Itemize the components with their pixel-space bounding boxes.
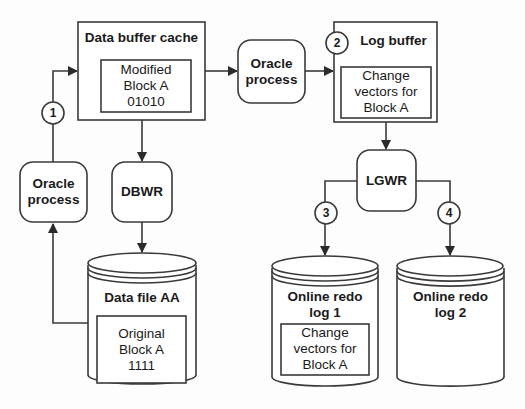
oracle-process-middle-line-1: Oracle <box>238 56 305 72</box>
step-3-label: 3 <box>315 205 337 221</box>
redo-log-2-title-line-1: Online redo <box>397 289 504 305</box>
step-4-label: 4 <box>438 205 460 221</box>
step-1-label: 1 <box>42 105 64 121</box>
original-block-text: Original Block A 1111 <box>97 326 186 374</box>
edge-datafile-to-oracle <box>53 224 88 323</box>
modified-block-line-2: Block A <box>101 78 191 94</box>
oracle-process-left-line-2: process <box>20 192 87 208</box>
oracle-process-middle-line-2: process <box>238 72 305 88</box>
log-buffer-inner-line-2: vectors for <box>341 84 431 100</box>
redo-log-1-inner-line-2: vectors for <box>281 341 369 357</box>
oracle-process-left-label: Oracle process <box>20 176 87 208</box>
oracle-redo-diagram: Data buffer cache Modified Block A 01010… <box>0 0 525 409</box>
oracle-process-left-line-1: Oracle <box>20 176 87 192</box>
online-redo-log-2-title: Online redo log 2 <box>397 289 504 321</box>
original-block-line-3: 1111 <box>97 358 186 374</box>
redo-log-1-inner-line-3: Block A <box>281 357 369 373</box>
step-2-label: 2 <box>326 35 348 51</box>
dbwr-label: DBWR <box>112 184 172 200</box>
log-buffer-inner-line-3: Block A <box>341 100 431 116</box>
redo-log-2-title-line-2: log 2 <box>397 305 504 321</box>
original-block-line-2: Block A <box>97 342 186 358</box>
data-file-title: Data file AA <box>88 290 196 306</box>
log-buffer-change-vectors-text: Change vectors for Block A <box>341 68 431 116</box>
modified-block-line-1: Modified <box>101 62 191 78</box>
log-buffer-title: Log buffer <box>350 33 437 49</box>
redo-log-1-title-line-2: log 1 <box>272 305 378 321</box>
modified-block-text: Modified Block A 01010 <box>101 62 191 110</box>
oracle-process-middle-label: Oracle process <box>238 56 305 88</box>
online-redo-log-1-title: Online redo log 1 <box>272 289 378 321</box>
original-block-line-1: Original <box>97 326 186 342</box>
lgwr-label: LGWR <box>357 173 416 189</box>
online-redo-log-2-cylinder <box>397 256 504 386</box>
data-buffer-cache-title: Data buffer cache <box>78 30 205 46</box>
log-buffer-inner-line-1: Change <box>341 68 431 84</box>
redo-log-1-title-line-1: Online redo <box>272 289 378 305</box>
modified-block-line-3: 01010 <box>101 94 191 110</box>
redo-log-1-change-vectors-text: Change vectors for Block A <box>281 325 369 373</box>
redo-log-1-inner-line-1: Change <box>281 325 369 341</box>
